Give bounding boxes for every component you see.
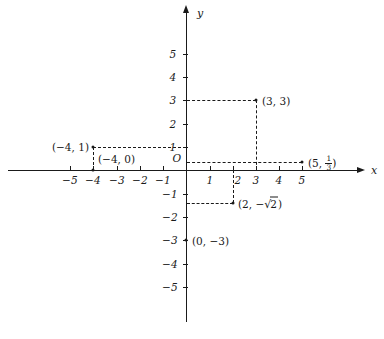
point-3-3-label: (3, 3) [262, 95, 290, 107]
point-2-negsqrt2-close: ) [278, 198, 282, 210]
y-tick-label-3: 3 [170, 94, 177, 106]
point-neg4-0-label: (−4, 0) [98, 153, 135, 165]
x-tick-label--2: −2 [132, 174, 148, 186]
y-tick-label--5: −5 [162, 281, 178, 293]
square-root-symbol: √2 [264, 198, 278, 211]
guide-x2-vertical [233, 170, 234, 203]
x-tick-label--5: −5 [62, 174, 78, 186]
y-tick-label--2: −2 [162, 211, 178, 223]
y-tick-4 [183, 77, 188, 78]
y-tick--5 [183, 287, 188, 288]
x-tick-label-4: 4 [276, 174, 283, 186]
point-0-neg3-marker [185, 239, 188, 242]
x-tick--3 [117, 166, 118, 170]
x-tick-label-5: 5 [299, 174, 306, 186]
y-tick--4 [183, 264, 188, 265]
point-5-onethird-close: ) [332, 157, 336, 169]
x-axis-arrow [357, 167, 365, 173]
y-tick-label--3: −3 [162, 234, 178, 246]
y-tick-label-2: 2 [170, 118, 177, 130]
radicand: 2 [270, 197, 278, 210]
point-5-onethird-label: (5, 13) [308, 155, 336, 171]
y-tick-label--1: −1 [162, 188, 178, 200]
x-tick-label--4: −4 [85, 174, 101, 186]
x-tick--1 [163, 166, 164, 170]
point-2-negsqrt2-prefix: (2, − [238, 198, 264, 210]
x-tick-4 [279, 166, 280, 170]
x-tick-label-1: 1 [207, 174, 214, 186]
point-neg4-1-label: (−4, 1) [52, 141, 89, 153]
point-neg4-0-marker [92, 169, 95, 172]
y-tick--1 [183, 194, 188, 195]
point-5-onethird-text: (5, [308, 157, 325, 169]
y-tick-label-4: 4 [170, 71, 177, 83]
x-tick-label-3: 3 [253, 174, 260, 186]
x-tick-5 [302, 166, 303, 170]
y-axis-label: y [197, 7, 203, 20]
point-5-onethird-marker [301, 161, 304, 164]
y-axis-line [186, 12, 187, 322]
x-tick-label--3: −3 [109, 174, 125, 186]
point-neg4-1-marker [92, 146, 95, 149]
guide-x3-vertical [256, 100, 257, 170]
x-tick-label-2: 2 [235, 174, 242, 186]
guide-y1-horizontal [93, 147, 186, 148]
x-tick-1 [210, 166, 211, 170]
point-0-neg3-label: (0, −3) [192, 235, 229, 247]
x-axis-label: x [371, 164, 377, 177]
y-tick-label--4: −4 [162, 258, 178, 270]
guide-third-horizontal [187, 162, 302, 163]
x-tick-label--1: −1 [155, 174, 171, 186]
y-tick--2 [183, 217, 188, 218]
y-tick-5 [183, 54, 188, 55]
y-axis-arrow [183, 5, 189, 13]
y-tick-label-5: 5 [170, 48, 177, 60]
guide-sqrt2-horizontal [187, 203, 233, 204]
point-2-negsqrt2-marker [232, 202, 235, 205]
coordinate-plane-figure: x y O −5 −4 −3 −2 −1 1 2 3 4 5 5 4 3 2 1… [0, 0, 384, 339]
y-tick-2 [183, 124, 188, 125]
x-tick--2 [140, 166, 141, 170]
origin-label: O [173, 152, 182, 164]
guide-y3-horizontal [187, 100, 256, 101]
guide-xneg4-vertical [93, 147, 94, 170]
x-tick--5 [70, 166, 71, 170]
point-3-3-marker [255, 99, 258, 102]
point-2-negsqrt2-label: (2, −√2) [238, 198, 282, 211]
x-axis-line [8, 170, 358, 171]
